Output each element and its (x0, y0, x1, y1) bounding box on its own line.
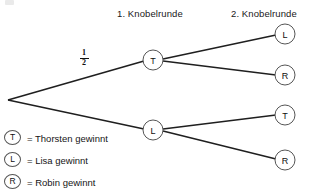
legend-item-text: = Lisa gewinnt (27, 155, 88, 166)
node-label: L (282, 30, 287, 40)
legend-symbol-t-icon: T (4, 130, 23, 147)
legend: T = Thorsten gewinnt L = Lisa gewinnt R … (4, 127, 108, 193)
legend-item-lisa: L = Lisa gewinnt (4, 149, 108, 171)
node-r-round2-upper[interactable]: R (275, 65, 295, 85)
edge-root-to-l (8, 100, 144, 129)
node-l-round2-upper[interactable]: L (275, 24, 295, 44)
node-t-round2-lower[interactable]: T (275, 105, 295, 125)
node-r-round2-lower[interactable]: R (275, 150, 295, 170)
node-t-round1[interactable]: T (143, 50, 163, 70)
edge-t-to-r (163, 61, 276, 75)
node-label: R (282, 156, 289, 166)
node-label: T (282, 111, 288, 121)
edge-l-to-t (163, 115, 276, 129)
edge-t-to-l (163, 35, 276, 59)
legend-item-thorsten: T = Thorsten gewinnt (4, 127, 108, 149)
legend-item-robin: R = Robin gewinnt (4, 171, 108, 193)
fraction-denominator: 2 (76, 59, 92, 67)
diagram-canvas: 1. Knobelrunde 2. Knobelrunde T L L (0, 0, 315, 196)
edge-l-to-r (163, 131, 276, 159)
legend-item-text: = Thorsten gewinnt (27, 133, 108, 144)
legend-symbol-label: R (4, 174, 21, 189)
legend-symbol-r-icon: R (4, 174, 23, 191)
node-label: R (282, 71, 289, 81)
legend-symbol-label: L (4, 152, 21, 167)
node-label: L (150, 126, 155, 136)
node-l-round1[interactable]: L (143, 120, 163, 140)
legend-symbol-label: T (4, 130, 21, 145)
fraction-numerator: 1 (76, 49, 92, 57)
legend-symbol-l-icon: L (4, 152, 23, 169)
legend-item-text: = Robin gewinnt (27, 177, 95, 188)
tree-nodes: T L L R T R (143, 24, 295, 170)
node-label: T (150, 56, 156, 66)
edge-probability-label: 1 2 (76, 49, 92, 68)
